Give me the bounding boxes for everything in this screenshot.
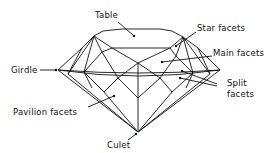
label-girdle: Girdle — [11, 66, 37, 75]
label-split-facets-line2: facets — [227, 90, 254, 99]
label-main-facets: Main facets — [213, 49, 264, 58]
label-star-facets: Star facets — [197, 24, 245, 33]
label-culet: Culet — [107, 141, 130, 150]
label-split-facets-line1: Split — [227, 79, 247, 88]
label-pavilion-facets: Pavilion facets — [13, 108, 77, 117]
diamond-diagram: Table Star facets Main facets Girdle Spl… — [0, 0, 277, 153]
label-table: Table — [95, 11, 118, 20]
